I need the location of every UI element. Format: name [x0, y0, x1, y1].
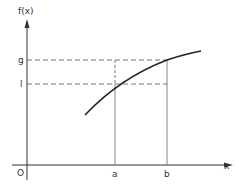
tick-label-l: l	[20, 79, 23, 89]
x-axis-label: x	[224, 161, 230, 171]
y-axis-arrow-icon	[25, 19, 30, 28]
origin-label: O	[17, 168, 24, 178]
function-diagram: f(x) x O a b g l	[0, 0, 239, 189]
tick-label-g: g	[18, 55, 24, 65]
tick-label-b: b	[164, 169, 170, 179]
y-axis-label: f(x)	[18, 6, 34, 16]
function-curve	[85, 51, 201, 115]
tick-label-a: a	[112, 169, 118, 179]
